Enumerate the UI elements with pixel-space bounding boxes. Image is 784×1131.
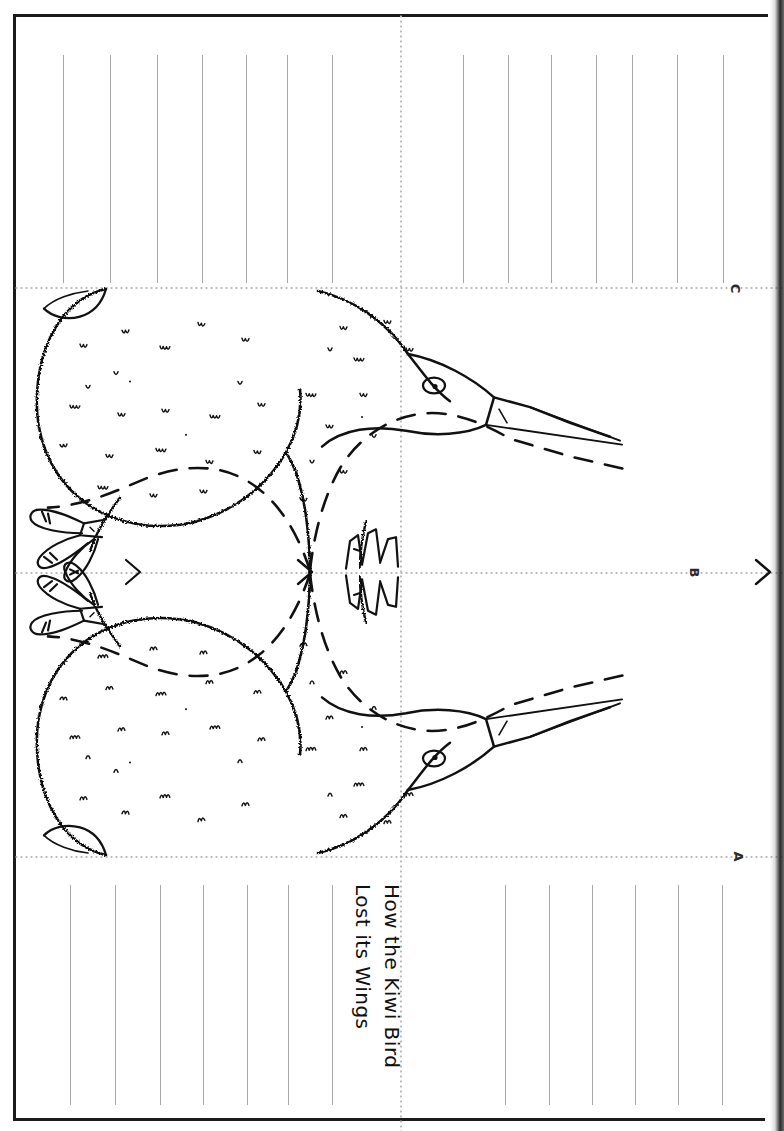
writing-rule — [463, 55, 464, 283]
writing-rule — [635, 885, 636, 1105]
fold-guide-horizontal-top — [14, 287, 784, 289]
fold-guide-horizontal-bottom — [14, 856, 784, 858]
writing-rule — [508, 55, 509, 283]
corner-label-b: B — [688, 568, 701, 578]
writing-rule — [288, 885, 289, 1105]
writing-rule — [70, 885, 71, 1105]
writing-rule — [551, 55, 552, 283]
writing-rule — [110, 55, 111, 283]
writing-rule — [203, 885, 204, 1105]
writing-rule — [632, 55, 633, 283]
writing-rule — [723, 55, 724, 283]
writing-rule — [157, 55, 158, 283]
writing-rule — [287, 55, 288, 283]
writing-rule — [115, 885, 116, 1105]
worksheet-page: C B A How the Kiwi Bird Lost its Wings — [0, 0, 784, 1131]
writing-rule — [160, 885, 161, 1105]
fold-guide-horizontal-middle — [14, 572, 784, 574]
writing-rule — [246, 55, 247, 283]
worksheet-title: How the Kiwi Bird Lost its Wings — [342, 884, 402, 1074]
writing-rule — [247, 885, 248, 1105]
title-line-2: Lost its Wings — [351, 884, 375, 1030]
writing-rule — [63, 55, 64, 283]
corner-label-c: C — [729, 284, 742, 294]
writing-rule — [677, 55, 678, 283]
page-frame-bottom — [13, 1118, 765, 1121]
book-binding-shadow — [770, 0, 784, 1131]
title-line-1: How the Kiwi Bird — [380, 884, 404, 1068]
writing-rule — [202, 55, 203, 283]
writing-rule — [549, 885, 550, 1105]
writing-rule — [332, 885, 333, 1105]
writing-rule — [678, 885, 679, 1105]
writing-rule — [722, 885, 723, 1105]
writing-rule — [596, 55, 597, 283]
writing-rule — [592, 885, 593, 1105]
corner-label-a: A — [732, 851, 745, 861]
writing-rule — [332, 55, 333, 283]
writing-rule — [505, 885, 506, 1105]
